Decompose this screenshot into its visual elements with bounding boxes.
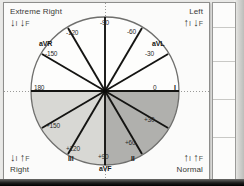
corner-caption: Right bbox=[10, 165, 29, 174]
lead-I-label: I bbox=[189, 155, 191, 162]
lead-I-label: I bbox=[189, 20, 191, 27]
degree-label-minus-30: -30 bbox=[145, 50, 154, 57]
corner-caption: Left bbox=[184, 7, 203, 16]
corner-normal: ↑I ↑F Normal bbox=[177, 152, 203, 174]
corner-caption: Normal bbox=[177, 165, 203, 174]
adjacent-panel-edge bbox=[212, 2, 236, 181]
lead-label-I: I bbox=[174, 84, 176, 91]
degree-label-180: 180 bbox=[34, 84, 44, 91]
degree-label-plus-60: +60 bbox=[125, 139, 135, 146]
lead-F-label: F bbox=[25, 155, 29, 162]
lead-F-label: F bbox=[25, 20, 29, 27]
side-rule bbox=[213, 27, 235, 28]
corner-lead-indicators: ↓I ↑F bbox=[10, 152, 29, 164]
degree-label-minus-120: -120 bbox=[66, 29, 78, 36]
corner-left: Left ↑I ↓F bbox=[184, 7, 203, 29]
corner-lead-indicators: ↓I ↓F bbox=[10, 17, 62, 29]
side-rule bbox=[213, 137, 235, 138]
degree-label-minus-150: -150 bbox=[45, 50, 57, 57]
lead-label-aVL: aVL bbox=[152, 40, 165, 47]
corner-right: ↓I ↑F Right bbox=[10, 152, 29, 174]
lead-label-aVF: aVF bbox=[99, 165, 112, 172]
side-rule bbox=[213, 99, 235, 100]
corner-extreme-right: Extreme Right ↓I ↓F bbox=[10, 7, 62, 29]
degree-label-minus-60: -60 bbox=[127, 28, 136, 35]
lead-F-label: F bbox=[199, 155, 203, 162]
degree-label-plus-90: +90 bbox=[98, 153, 108, 160]
degree-label-0: 0 bbox=[153, 84, 156, 91]
lead-I-label: I bbox=[16, 20, 18, 27]
lead-label-III: III bbox=[68, 155, 74, 162]
corner-caption: Extreme Right bbox=[10, 7, 62, 16]
degree-label-plus-150: +150 bbox=[46, 122, 60, 129]
lead-F-label: F bbox=[199, 20, 203, 27]
lead-label-aVR: aVR bbox=[39, 40, 52, 47]
lead-I-label: I bbox=[16, 155, 18, 162]
lead-label-II: II bbox=[131, 155, 135, 162]
degree-label-plus-30: +30 bbox=[144, 116, 154, 123]
wheel-center bbox=[103, 89, 107, 93]
side-rule bbox=[213, 61, 235, 62]
page-gutter-bottom bbox=[0, 179, 244, 186]
axis-wheel-svg bbox=[29, 15, 181, 167]
hexaxial-diagram-panel: -90 -60 -30 0 +30 +60 +90 +120 +150 180 … bbox=[3, 2, 210, 181]
degree-label-plus-120: +120 bbox=[66, 145, 80, 152]
scanned-page-background: -90 -60 -30 0 +30 +60 +90 +120 +150 180 … bbox=[0, 0, 244, 186]
corner-lead-indicators: ↑I ↑F bbox=[177, 152, 203, 164]
corner-lead-indicators: ↑I ↓F bbox=[184, 17, 203, 29]
degree-label-minus-90: -90 bbox=[100, 19, 109, 26]
